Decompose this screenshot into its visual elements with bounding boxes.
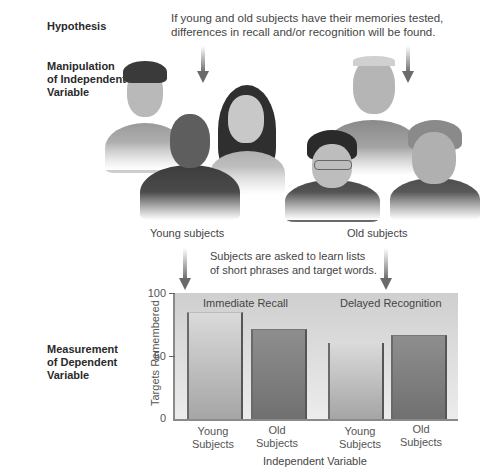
old-subjects-illustration	[285, 50, 480, 220]
bar-immediate-young	[187, 312, 243, 419]
group-title-delayed-recognition: Delayed Recognition	[340, 297, 442, 309]
x-axis-label: Independent Variable	[263, 454, 367, 468]
hypothesis-text-line: differences in recall and/or recognition…	[171, 25, 443, 39]
young-subjects-label: Young subjects	[150, 226, 224, 240]
hypothesis-text-line: If young and old subjects have their mem…	[171, 11, 443, 25]
x-category-line: Subjects	[247, 437, 307, 450]
x-category-line: Subjects	[330, 438, 390, 451]
y-tick	[169, 356, 175, 357]
bar-delayed-young	[328, 343, 384, 419]
group-title-immediate-recall: Immediate Recall	[203, 297, 288, 309]
y-tick	[169, 293, 175, 294]
x-category-line: Young	[330, 425, 390, 438]
measurement-label-line: Measurement	[47, 343, 118, 356]
procedure-text-line: of short phrases and target words.	[210, 263, 377, 277]
bar-delayed-old	[391, 335, 447, 419]
x-category-label: Old Subjects	[247, 424, 307, 450]
x-category-line: Old	[391, 423, 451, 436]
x-category-line: Young	[183, 425, 243, 438]
bar-immediate-old	[251, 329, 307, 419]
measurement-label-line: Variable	[47, 369, 118, 382]
hypothesis-text: If young and old subjects have their mem…	[171, 11, 443, 39]
measurement-label-line: of Dependent	[47, 356, 118, 369]
bar-chart: Immediate Recall Delayed Recognition	[173, 293, 458, 421]
procedure-text: Subjects are asked to learn lists of sho…	[210, 249, 377, 277]
x-category-line: Subjects	[183, 438, 243, 451]
arrow-down-icon	[380, 248, 392, 290]
hypothesis-label-text: Hypothesis	[47, 20, 106, 32]
glasses-icon	[314, 160, 352, 170]
arrow-down-icon	[179, 248, 191, 290]
y-tick-label: 100	[142, 287, 166, 299]
young-subjects-illustration	[95, 55, 285, 220]
young-bald-man-figure	[140, 110, 240, 220]
x-category-line: Subjects	[391, 436, 451, 449]
x-category-label: Young Subjects	[330, 425, 390, 451]
old-woman-figure	[390, 120, 480, 220]
procedure-text-line: Subjects are asked to learn lists	[210, 249, 377, 263]
x-category-line: Old	[247, 424, 307, 437]
old-woman-glasses-figure	[285, 130, 380, 220]
x-category-label: Young Subjects	[183, 425, 243, 451]
y-tick-label: 50	[142, 350, 166, 362]
x-category-label: Old Subjects	[391, 423, 451, 449]
hypothesis-label: Hypothesis	[47, 20, 106, 33]
y-tick-label: 0	[142, 412, 166, 424]
old-subjects-label: Old subjects	[347, 226, 408, 240]
measurement-label: Measurement of Dependent Variable	[47, 343, 118, 382]
